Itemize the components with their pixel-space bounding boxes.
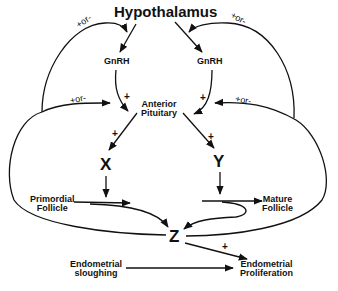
primordial-follicle-line2: Follicle — [30, 204, 75, 213]
node-mature-follicle: Mature Follicle — [262, 195, 293, 214]
node-gnrh-left: GnRH — [104, 57, 130, 66]
node-x: X — [100, 156, 111, 174]
sign-pituitary-to-x: + — [112, 129, 118, 140]
arrow-hypothalamus-to-gnrh-left — [120, 24, 136, 52]
sign-gnrh-left: + — [124, 92, 130, 103]
node-hypothalamus: Hypothalamus — [114, 4, 217, 20]
sign-z-to-proliferation: + — [222, 242, 228, 253]
arrow-primordial-to-z — [90, 204, 168, 227]
sign-pituitary-to-y: + — [208, 132, 214, 143]
feedback-loop-lower-right — [186, 103, 326, 236]
arrow-z-to-proliferation — [185, 243, 247, 259]
sign-gnrh-right: + — [200, 93, 206, 104]
arrow-primordial-follicle — [74, 202, 130, 203]
node-anterior-pituitary: Anterior Pituitary — [141, 100, 177, 119]
node-endometrial-proliferation: Endometrial Proliferation — [240, 260, 293, 279]
node-z: Z — [169, 228, 179, 246]
node-y: Y — [213, 153, 224, 171]
node-primordial-follicle: Primordial Follicle — [30, 195, 75, 214]
node-endometrial-sloughing: Endometrial sloughing — [70, 260, 122, 279]
node-gnrh-right: GnRH — [197, 57, 223, 66]
mature-follicle-line2: Follicle — [262, 204, 293, 213]
arrow-mature-to-z — [184, 202, 246, 229]
hormone-feedback-diagram: Hypothalamus GnRH GnRH Anterior Pituitar… — [0, 0, 338, 291]
feedback-loop-lower-left — [9, 103, 166, 235]
anterior-pituitary-line2: Pituitary — [141, 109, 177, 118]
endometrial-sloughing-line2: sloughing — [70, 269, 122, 278]
endometrial-proliferation-line2: Proliferation — [240, 269, 293, 278]
diagram-arrows — [0, 0, 338, 291]
